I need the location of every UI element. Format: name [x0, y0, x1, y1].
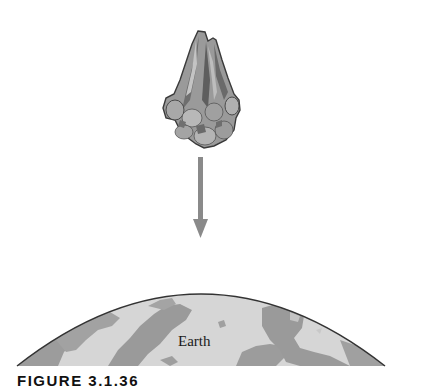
earth-globe [17, 294, 385, 366]
meteoroid-icon [163, 31, 240, 148]
earth-label: Earth [178, 333, 210, 350]
down-arrow-icon [193, 157, 208, 238]
figure-caption: FIGURE 3.1.36 [17, 372, 139, 389]
